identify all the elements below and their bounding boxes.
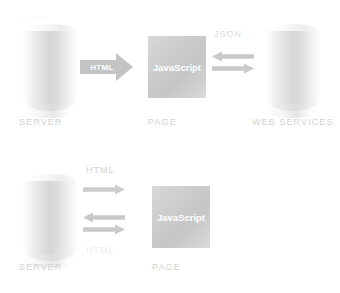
cylinder-body	[22, 31, 78, 111]
json-flow-label: JSON	[214, 29, 242, 39]
postback-arrow-left	[83, 212, 125, 223]
arrow-right-icon	[83, 224, 125, 235]
cylinder-body	[22, 181, 78, 261]
json-arrow-right	[212, 63, 254, 74]
cylinder-bottom-shade	[265, 104, 321, 118]
html-flow-label-upper: HTML	[86, 165, 115, 175]
html-flow-label-lower: HTML	[86, 245, 115, 255]
page-label-top: PAGE	[148, 117, 177, 127]
web-services-label: WEB SERVICES	[252, 117, 334, 127]
server-label-bottom: SERVER	[19, 262, 62, 272]
arrow-right-icon	[212, 63, 254, 74]
web-services-cylinder	[265, 24, 321, 118]
server-label-top: SERVER	[19, 117, 62, 127]
diagram-top: HTTP SERVER HTML JavaScript PAGE JSON	[0, 0, 340, 150]
html-arrow-right-again	[83, 224, 125, 235]
server-cylinder-bottom	[22, 174, 78, 268]
arrow-left-icon	[83, 212, 125, 223]
javascript-label-bottom: JavaScript	[157, 212, 205, 223]
html-block-arrow-label: HTML	[84, 52, 120, 82]
diagram-canvas: HTTP SERVER HTML JavaScript PAGE JSON	[0, 0, 340, 293]
arrow-left-icon	[212, 51, 254, 62]
html-block-arrow: HTML	[80, 52, 134, 82]
page-box-bottom: JavaScript	[152, 186, 210, 248]
page-label-bottom: PAGE	[152, 262, 181, 272]
cylinder-body	[265, 31, 321, 111]
server-cylinder-top	[22, 24, 78, 118]
ghost-text-top: HTTP	[22, 14, 50, 24]
page-box-top: JavaScript	[148, 36, 206, 98]
arrow-right-icon	[83, 184, 125, 195]
javascript-label-top: JavaScript	[153, 62, 201, 73]
html-arrow-right-initial	[83, 184, 125, 195]
diagram-bottom: SERVER HTML HTML JavaScript PAGE	[0, 150, 340, 293]
json-arrow-left	[212, 51, 254, 62]
cylinder-bottom-shade	[22, 104, 78, 118]
